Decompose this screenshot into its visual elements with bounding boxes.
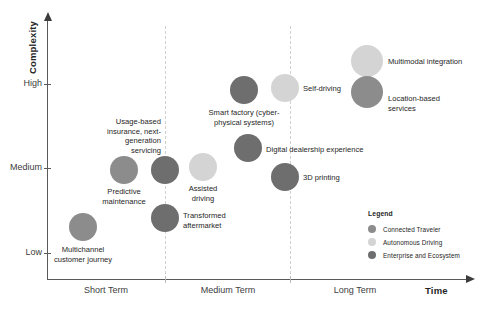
legend-item-label: Enterprise and Ecosystem xyxy=(383,252,460,259)
x-axis-tick-label: Medium Term xyxy=(201,285,255,295)
bubble-point-label: 3D printing xyxy=(303,173,340,183)
x-axis-tick xyxy=(165,276,166,283)
bubble-point-label: Multimodal integration xyxy=(388,57,462,67)
x-axis-line xyxy=(47,279,467,280)
legend-swatch-icon xyxy=(368,225,376,233)
legend-item-label: Connected Traveler xyxy=(383,226,441,233)
bubble-chart: Complexity Time HighMediumLow Short Term… xyxy=(0,0,485,311)
x-axis-title: Time xyxy=(425,285,448,296)
time-band-divider xyxy=(165,26,166,279)
x-axis-tick-label: Long Term xyxy=(334,285,376,295)
bubble-point[interactable] xyxy=(151,204,179,232)
legend-title: Legend xyxy=(368,210,480,217)
y-axis-line xyxy=(47,20,48,279)
x-axis-tick-label: Short Term xyxy=(84,285,128,295)
bubble-point[interactable] xyxy=(271,163,299,191)
bubble-point[interactable] xyxy=(351,45,383,77)
x-axis-tick xyxy=(290,276,291,283)
y-axis-tick xyxy=(44,84,51,85)
bubble-point[interactable] xyxy=(69,213,97,241)
y-axis-tick xyxy=(44,168,51,169)
legend-swatch-icon xyxy=(368,238,376,246)
bubble-point-label: Transformed aftermarket xyxy=(183,211,226,230)
bubble-point-label: Self-driving xyxy=(303,84,341,94)
bubble-point-label: Multichannel customer journey xyxy=(23,245,143,264)
legend-item-label: Autonomous Driving xyxy=(383,239,442,246)
legend-item[interactable]: Enterprise and Ecosystem xyxy=(368,249,480,261)
bubble-point[interactable] xyxy=(189,153,217,181)
legend: Legend Connected TravelerAutonomous Driv… xyxy=(368,210,480,262)
y-axis-tick-label: High xyxy=(0,78,42,88)
bubble-point[interactable] xyxy=(151,156,179,184)
bubble-point[interactable] xyxy=(234,134,262,162)
y-axis-tick-label: Medium xyxy=(0,162,42,172)
bubble-point-label: Location-based services xyxy=(388,94,440,113)
bubble-point[interactable] xyxy=(230,76,258,104)
bubble-point[interactable] xyxy=(110,156,138,184)
bubble-point-label: Usage-based insurance, next- generation … xyxy=(107,117,161,155)
x-axis-arrow-icon xyxy=(466,275,475,283)
legend-item[interactable]: Autonomous Driving xyxy=(368,236,480,248)
legend-item[interactable]: Connected Traveler xyxy=(368,223,480,235)
bubble-point-label: Digital dealership experience xyxy=(266,145,364,155)
legend-swatch-icon xyxy=(368,251,376,259)
bubble-point-label: Smart factory (cyber- physical systems) xyxy=(184,108,304,127)
y-axis-arrow-icon xyxy=(44,12,52,21)
bubble-point[interactable] xyxy=(271,74,299,102)
bubble-point-label: Assisted driving xyxy=(143,184,263,203)
bubble-point[interactable] xyxy=(351,76,383,108)
legend-items: Connected TravelerAutonomous DrivingEnte… xyxy=(368,223,480,261)
